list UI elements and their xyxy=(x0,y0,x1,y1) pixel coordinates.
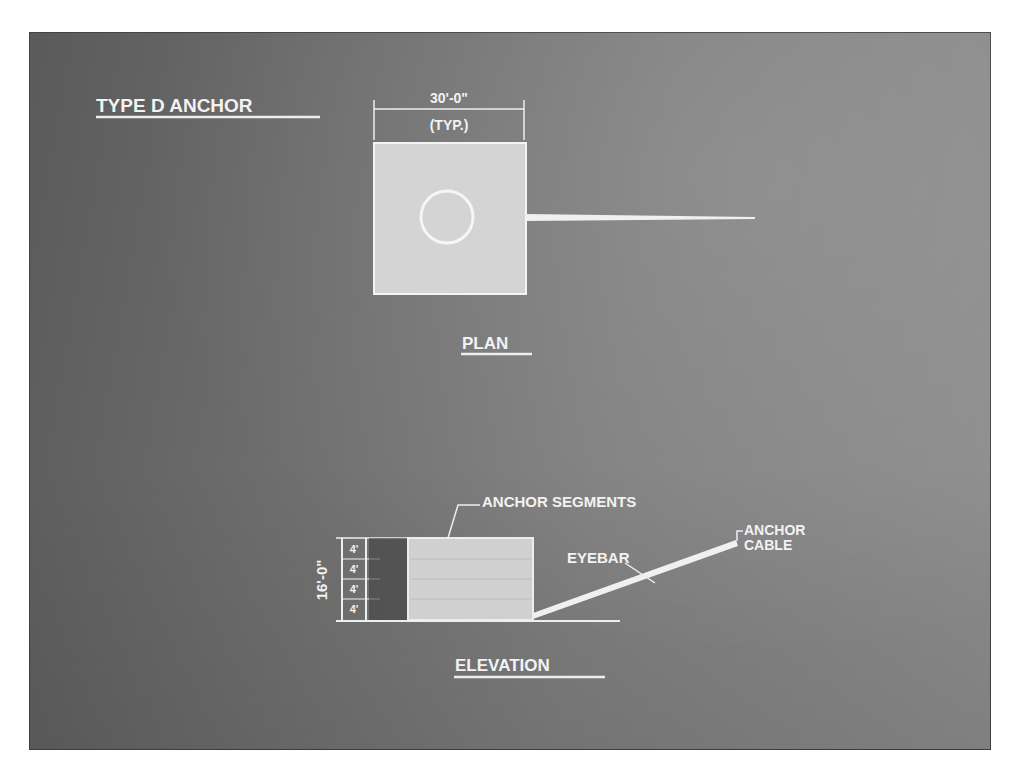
eyebar-callout: EYEBAR xyxy=(567,549,630,566)
eyebar-cable-line xyxy=(533,540,738,619)
elevation-height-dimension: 16'-0" xyxy=(313,560,330,601)
segments-leader xyxy=(448,505,480,538)
elevation-label: ELEVATION xyxy=(455,656,550,675)
plan-anchor-block xyxy=(374,143,526,294)
segment-dim-1: 4' xyxy=(350,543,359,555)
drawing-title: TYPE D ANCHOR xyxy=(96,95,253,116)
segment-dim-4: 4' xyxy=(350,603,359,615)
anchor-cable-callout-line1: ANCHOR xyxy=(744,522,805,538)
segment-dim-2: 4' xyxy=(350,563,359,575)
plan-dimension-note: (TYP.) xyxy=(430,117,469,133)
anchor-drawing: TYPE D ANCHOR 30'-0" (TYP.) PLAN 4' 4' 4… xyxy=(0,0,1014,777)
plan-dimension: 30'-0" (TYP.) xyxy=(374,90,524,140)
plan-anchor-cable xyxy=(526,214,755,221)
anchor-segments-callout: ANCHOR SEGMENTS xyxy=(482,493,636,510)
plan-label: PLAN xyxy=(462,334,508,353)
plan-dimension-text: 30'-0" xyxy=(430,90,468,106)
anchor-cable-callout-line2: CABLE xyxy=(744,537,792,553)
elevation-view: 4' 4' 4' 4' 16'-0" ANCHOR SEGMENTS EYEBA… xyxy=(313,493,805,621)
cable-leader xyxy=(737,531,743,541)
segment-dim-3: 4' xyxy=(350,583,359,595)
